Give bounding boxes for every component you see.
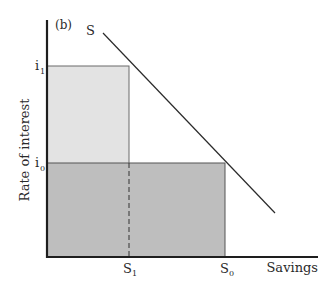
- x-tick-s0: S 0: [220, 261, 234, 278]
- svg-text:1: 1: [40, 67, 45, 76]
- svg-text:i: i: [35, 155, 39, 170]
- x-tick-s1: S 1: [123, 261, 137, 278]
- y-axis-label: Rate of interest: [17, 98, 32, 202]
- svg-text:S: S: [220, 261, 229, 276]
- svg-text:S: S: [123, 261, 132, 276]
- svg-text:0: 0: [229, 269, 234, 278]
- svg-text:1: 1: [132, 269, 137, 278]
- dark-shaded-area: [47, 163, 225, 257]
- curve-label: S: [86, 23, 95, 38]
- y-tick-i0: i 0: [35, 155, 45, 173]
- savings-interest-diagram: (b) S Rate of interest Savings i 1 i 0 S…: [0, 0, 336, 293]
- panel-label: (b): [55, 18, 72, 32]
- svg-text:i: i: [35, 58, 39, 73]
- y-tick-i1: i 1: [35, 58, 45, 76]
- svg-text:0: 0: [40, 164, 45, 173]
- x-axis-label: Savings: [266, 260, 318, 275]
